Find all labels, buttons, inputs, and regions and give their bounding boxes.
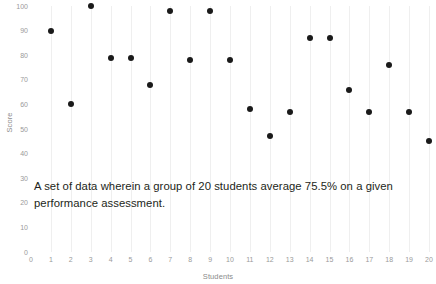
x-axis-tick-label: 0 [22,256,40,263]
gridline-vertical [349,6,350,252]
x-axis-tick-label: 13 [281,256,299,263]
gridline-vertical [230,6,231,252]
gridline-vertical [190,6,191,252]
data-point [227,57,233,63]
y-axis-tick-labels: 0102030405060708090100 [0,0,28,258]
gridline-vertical [369,6,370,252]
x-axis-tick-label: 20 [420,256,436,263]
gridline-vertical [330,6,331,252]
x-axis-tick-label: 1 [42,256,60,263]
data-point [327,35,333,41]
gridline-vertical [71,6,72,252]
data-point [147,82,153,88]
x-axis-tick-label: 8 [181,256,199,263]
gridline-vertical [310,6,311,252]
x-axis-tick-label: 4 [102,256,120,263]
data-point [307,35,313,41]
data-point [247,106,253,112]
y-axis-tick-label: 30 [4,175,28,182]
gridline-vertical [111,6,112,252]
y-axis-tick-label: 10 [4,224,28,231]
data-point [48,28,54,34]
gridline-vertical [250,6,251,252]
annotation-line-2: performance assessment. [34,195,364,212]
gridline-vertical [270,6,271,252]
data-point [207,8,213,14]
data-point [88,3,94,9]
x-axis-tick-label: 16 [340,256,358,263]
y-axis-tick-label: 70 [4,76,28,83]
x-axis-tick-label: 3 [82,256,100,263]
annotation-line-1: A set of data wherein a group of 20 stud… [34,178,364,195]
y-axis-tick-label: 20 [4,199,28,206]
gridline-vertical [429,6,430,252]
y-axis-tick-label: 0 [4,249,28,256]
gridline-vertical [409,6,410,252]
gridline-vertical [389,6,390,252]
x-axis-tick-label: 18 [380,256,398,263]
y-axis-tick-label: 80 [4,52,28,59]
y-axis-tick-label: 40 [4,150,28,157]
gridline-vertical [51,6,52,252]
data-point [406,109,412,115]
x-axis-tick-labels: 01234567891011121314151617181920 [31,256,431,268]
x-axis-tick-label: 12 [261,256,279,263]
data-point [267,133,273,139]
x-axis-tick-label: 15 [321,256,339,263]
plot-area [31,6,429,252]
gridline-vertical [210,6,211,252]
data-point [426,138,432,144]
data-point [187,57,193,63]
data-point [366,109,372,115]
x-axis-tick-label: 2 [62,256,80,263]
gridline-vertical [131,6,132,252]
x-axis-tick-label: 17 [360,256,378,263]
data-point [346,87,352,93]
gridline-vertical [290,6,291,252]
x-axis-title: Students [0,272,436,281]
data-point [386,62,392,68]
x-axis-tick-label: 14 [301,256,319,263]
x-axis-tick-label: 9 [201,256,219,263]
x-axis-tick-label: 10 [221,256,239,263]
y-axis-tick-label: 90 [4,27,28,34]
x-axis-tick-label: 7 [161,256,179,263]
gridline-vertical [150,6,151,252]
y-axis-tick-label: 60 [4,101,28,108]
x-axis-tick-label: 19 [400,256,418,263]
scatter-chart: Score 0102030405060708090100 01234567891… [0,0,436,284]
gridline-vertical [91,6,92,252]
data-point [128,55,134,61]
gridline-vertical [170,6,171,252]
x-axis-tick-label: 5 [122,256,140,263]
x-axis-tick-label: 6 [141,256,159,263]
x-axis-tick-label: 11 [241,256,259,263]
chart-annotation-text: A set of data wherein a group of 20 stud… [34,178,364,212]
y-axis-tick-label: 50 [4,126,28,133]
data-point [287,109,293,115]
y-axis-tick-label: 100 [4,3,28,10]
data-point [167,8,173,14]
data-point [68,101,74,107]
data-point [108,55,114,61]
